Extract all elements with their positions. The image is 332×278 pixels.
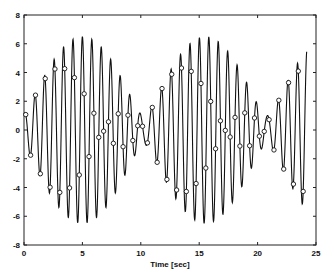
y-tick-label: -2 — [13, 155, 21, 164]
sample-marker — [121, 145, 125, 149]
sample-marker — [223, 128, 227, 132]
sample-marker — [160, 86, 164, 90]
y-tick-label: 0 — [16, 126, 21, 135]
y-tick-label: -8 — [13, 241, 21, 250]
sample-marker — [155, 160, 159, 164]
sample-marker — [199, 81, 203, 85]
plot-area: 0510152025 -8-6-4-202468 — [13, 11, 321, 258]
x-tick-label: 5 — [80, 249, 85, 258]
sample-marker — [48, 185, 52, 189]
sample-marker — [38, 172, 42, 176]
sample-marker — [92, 111, 96, 115]
y-tick-label: -6 — [13, 212, 21, 221]
sample-marker — [277, 98, 281, 102]
sample-marker — [72, 75, 76, 79]
sample-marker — [58, 190, 62, 194]
y-tick-label: 6 — [16, 40, 21, 49]
sample-marker — [272, 148, 276, 152]
sample-marker — [28, 153, 32, 157]
sample-marker — [126, 113, 130, 117]
sample-marker — [262, 129, 266, 133]
x-tick-label: 10 — [136, 249, 145, 258]
sample-marker — [179, 66, 183, 70]
sample-marker — [282, 167, 286, 171]
sample-marker — [218, 119, 222, 123]
sample-marker — [228, 135, 232, 139]
sample-marker — [165, 177, 169, 181]
sample-marker — [106, 120, 110, 124]
sample-marker — [209, 99, 213, 103]
sample-marker — [62, 66, 66, 70]
sample-marker — [150, 105, 154, 109]
sample-marker — [174, 188, 178, 192]
y-tick-label: -4 — [13, 184, 21, 193]
sample-marker — [184, 189, 188, 193]
x-axis-label: Time [sec] — [150, 260, 190, 269]
sample-marker — [243, 111, 247, 115]
sample-marker — [101, 129, 105, 133]
y-tick-label: 8 — [16, 11, 21, 20]
sample-marker — [267, 117, 271, 121]
sample-marker — [170, 72, 174, 76]
sample-marker — [82, 92, 86, 96]
sample-marker — [131, 138, 135, 142]
sample-marker — [291, 182, 295, 186]
y-tick-label: 2 — [16, 97, 21, 106]
x-tick-label: 20 — [253, 249, 262, 258]
sample-marker — [204, 166, 208, 170]
sample-marker — [87, 154, 91, 158]
sample-marker — [145, 141, 149, 145]
sample-marker — [24, 112, 28, 116]
sample-marker — [233, 115, 237, 119]
sample-marker — [296, 69, 300, 73]
sample-marker — [140, 124, 144, 128]
sample-marker — [135, 124, 139, 128]
sample-marker — [238, 144, 242, 148]
sample-marker — [286, 80, 290, 84]
sample-marker — [53, 67, 57, 71]
sample-marker — [301, 189, 305, 193]
sample-marker — [247, 144, 251, 148]
sample-marker — [43, 76, 47, 80]
sample-marker — [77, 173, 81, 177]
x-tick-label: 0 — [22, 249, 27, 258]
sample-marker — [213, 147, 217, 151]
sample-marker — [194, 181, 198, 185]
chart: 0510152025 -8-6-4-202468 Time [sec] — [0, 0, 332, 278]
sample-marker — [111, 141, 115, 145]
sample-marker — [257, 134, 261, 138]
y-tick-label: 4 — [16, 69, 21, 78]
x-axis-ticks: 0510152025 — [22, 15, 321, 258]
x-tick-label: 25 — [312, 249, 321, 258]
sample-marker — [252, 116, 256, 120]
x-tick-label: 15 — [195, 249, 204, 258]
sample-marker — [97, 135, 101, 139]
sample-marker — [33, 93, 37, 97]
sample-marker — [67, 186, 71, 190]
sample-marker — [189, 69, 193, 73]
sample-marker — [116, 112, 120, 116]
